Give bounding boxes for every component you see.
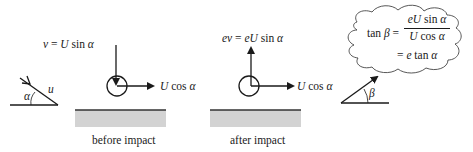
fraction: eU sin α U cos α — [404, 14, 450, 42]
before-impact-sketch — [75, 45, 166, 127]
sin-function: sin — [258, 32, 277, 44]
speed-label-u: u — [48, 84, 54, 96]
alpha-symbol: α — [326, 80, 332, 92]
caption-after-impact: after impact — [230, 135, 285, 147]
sin-function: sin — [69, 38, 88, 50]
before-horizontal-component-label: U cos α — [160, 81, 195, 93]
fraction-numerator: eU sin α — [404, 14, 450, 29]
angle-label-alpha: α — [24, 91, 30, 103]
cos-function: cos — [418, 30, 439, 42]
equals-sign: = — [390, 27, 399, 39]
equals-sign: = — [48, 38, 60, 50]
diagram-canvas — [0, 0, 473, 152]
caption-before-impact: before impact — [92, 135, 156, 147]
alpha-symbol: α — [440, 13, 446, 25]
after-vertical-component-label: ev = eU sin α — [222, 33, 283, 45]
angle-label-beta: β — [369, 88, 375, 100]
eU-symbol: eU — [408, 13, 421, 25]
alpha-angle-arc — [31, 92, 35, 105]
after-horizontal-component-label: U cos α — [297, 81, 332, 93]
alpha-symbol: α — [88, 38, 94, 50]
ground-after — [210, 110, 301, 127]
after-impact-sketch — [210, 48, 301, 127]
equals-sign: = — [397, 49, 406, 61]
alpha-symbol: α — [431, 49, 437, 61]
result-line: = e tan α — [397, 50, 437, 62]
eU-symbol: eU — [244, 32, 257, 44]
outgoing-velocity-sketch — [341, 77, 389, 103]
alpha-symbol: α — [277, 32, 283, 44]
before-vertical-component-label: v = U sin α — [43, 39, 94, 51]
fraction-denominator: U cos α — [404, 29, 450, 43]
equals-sign: = — [232, 32, 244, 44]
ground-before — [75, 110, 166, 127]
alpha-symbol: α — [439, 30, 445, 42]
tan-beta-lhs: tan β = — [367, 28, 399, 40]
alpha-symbol: α — [189, 80, 195, 92]
tan-function: tan — [367, 27, 384, 39]
cos-function: cos — [168, 80, 189, 92]
beta-angle-arc — [364, 89, 368, 103]
cos-function: cos — [305, 80, 326, 92]
tan-function: tan — [411, 49, 431, 61]
ev-symbol: ev — [222, 32, 232, 44]
U-symbol: U — [60, 38, 68, 50]
U-symbol: U — [409, 30, 417, 42]
sin-function: sin — [421, 13, 440, 25]
